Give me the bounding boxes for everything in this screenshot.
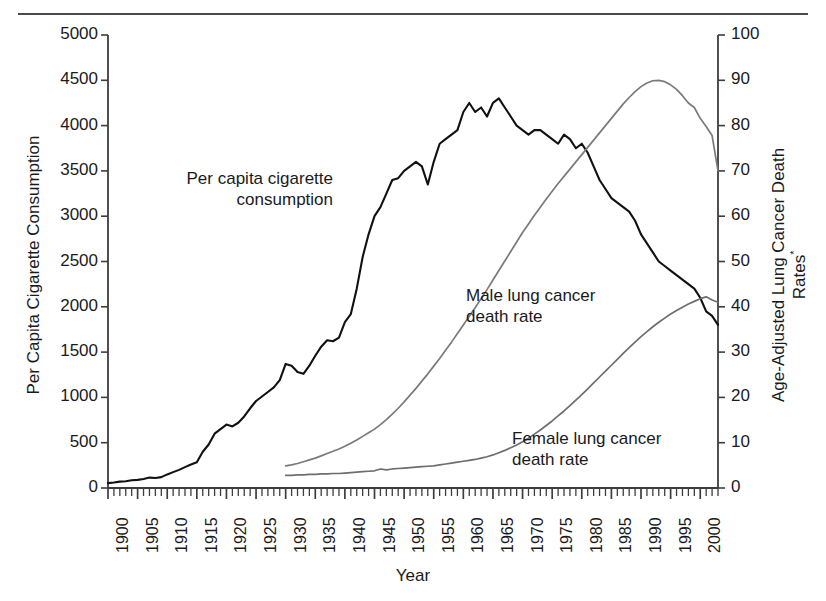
bottom-axis-tick-1940: 1940: [351, 517, 369, 553]
left-axis-tick-4000: 4000: [28, 115, 98, 135]
right-axis-tick-80: 80: [731, 115, 771, 135]
left-axis-tick-4500: 4500: [28, 69, 98, 89]
asterisk-footnote-marker: *: [788, 251, 800, 255]
bottom-axis-tick-1970: 1970: [529, 517, 547, 553]
annotation-cigarette-line1: Per capita cigarette: [118, 168, 333, 189]
right-axis-title-line1: Age-Adjusted Lung Cancer Death: [769, 148, 788, 402]
bottom-axis-tick-1900: 1900: [114, 517, 132, 553]
bottom-axis-tick-2000: 2000: [706, 517, 724, 553]
left-axis-tick-0: 0: [28, 477, 98, 497]
left-axis-tick-3000: 3000: [28, 205, 98, 225]
bottom-axis-tick-1920: 1920: [232, 517, 250, 553]
bottom-axis-tick-1935: 1935: [321, 517, 339, 553]
annotation-male-line1: Male lung cancer: [466, 285, 595, 306]
bottom-axis-tick-1990: 1990: [647, 517, 665, 553]
bottom-axis-tick-1905: 1905: [144, 517, 162, 553]
right-axis-tick-50: 50: [731, 251, 771, 271]
bottom-axis-tick-1995: 1995: [677, 517, 695, 553]
bottom-axis-tick-1985: 1985: [617, 517, 635, 553]
right-axis-tick-40: 40: [731, 296, 771, 316]
right-axis-tick-100: 100: [731, 24, 771, 44]
bottom-axis-tick-1975: 1975: [558, 517, 576, 553]
left-axis-tick-3500: 3500: [28, 160, 98, 180]
annotation-female-death-rate: Female lung cancer death rate: [512, 428, 661, 471]
bottom-axis-tick-1980: 1980: [588, 517, 606, 553]
bottom-axis-tick-1950: 1950: [410, 517, 428, 553]
annotation-male-line2: death rate: [466, 306, 595, 327]
left-axis-tick-1500: 1500: [28, 341, 98, 361]
right-axis-tick-20: 20: [731, 386, 771, 406]
left-axis-tick-2000: 2000: [28, 296, 98, 316]
right-axis-tick-10: 10: [731, 432, 771, 452]
bottom-axis-tick-1910: 1910: [173, 517, 191, 553]
left-axis-tick-5000: 5000: [28, 24, 98, 44]
annotation-female-line2: death rate: [512, 449, 661, 470]
left-axis-tick-2500: 2500: [28, 251, 98, 271]
right-axis-tick-60: 60: [731, 205, 771, 225]
left-axis-tick-1000: 1000: [28, 386, 98, 406]
bottom-axis-tick-1965: 1965: [499, 517, 517, 553]
bottom-axis-tick-1945: 1945: [381, 517, 399, 553]
bottom-axis-tick-1930: 1930: [292, 517, 310, 553]
bottom-axis-tick-1960: 1960: [469, 517, 487, 553]
right-axis-tick-70: 70: [731, 160, 771, 180]
right-axis-title-line2: Rates*: [788, 45, 809, 505]
right-axis-title-line2-text: Rates: [790, 255, 809, 299]
right-axis-tick-0: 0: [731, 477, 771, 497]
annotation-female-line1: Female lung cancer: [512, 428, 661, 449]
figure-root: Per Capita Cigarette Consumption Age-Adj…: [0, 0, 826, 601]
right-axis-tick-90: 90: [731, 69, 771, 89]
left-axis-tick-500: 500: [28, 432, 98, 452]
annotation-male-death-rate: Male lung cancer death rate: [466, 285, 595, 328]
annotation-cigarette-consumption: Per capita cigarette consumption: [118, 168, 333, 211]
bottom-axis-tick-1955: 1955: [440, 517, 458, 553]
bottom-axis-tick-1915: 1915: [203, 517, 221, 553]
bottom-axis-tick-1925: 1925: [262, 517, 280, 553]
bottom-axis-title: Year: [0, 566, 826, 586]
line-chart-canvas: [0, 0, 826, 601]
right-axis-title: Age-Adjusted Lung Cancer Death Rates*: [769, 45, 809, 505]
right-axis-tick-30: 30: [731, 341, 771, 361]
annotation-cigarette-line2: consumption: [118, 189, 333, 210]
